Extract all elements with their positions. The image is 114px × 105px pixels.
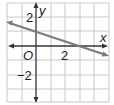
line-right-arrow-icon <box>102 51 109 56</box>
x-axis-label: x <box>99 30 107 45</box>
origin-label: O <box>23 48 33 63</box>
x-axis-left-arrow-icon <box>8 44 14 49</box>
y-axis-label: y <box>38 3 47 18</box>
y-tick-label-2: 2 <box>26 10 33 25</box>
y-tick-label-neg2: −2 <box>17 68 32 83</box>
x-tick-label-2: 2 <box>61 48 68 63</box>
coordinate-plane: y x O 2 2 −2 <box>0 0 114 105</box>
